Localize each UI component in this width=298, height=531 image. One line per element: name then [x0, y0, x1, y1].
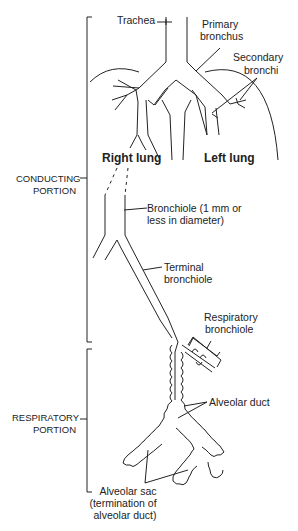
respiratory-bracket — [87, 349, 92, 492]
bronchiole — [93, 195, 105, 258]
label-left-lung: Left lung — [204, 152, 255, 164]
label-terminal-bronchiole-line1: Terminal — [164, 261, 204, 273]
alveolar-duct — [123, 345, 172, 467]
label-alveolar-sac-line3: alveolar duct) — [93, 509, 157, 521]
label-secondary-bronchi-line2: bronchi — [244, 64, 278, 76]
label-terminal-bronchiole-line2: bronchiole — [164, 273, 212, 285]
label-trachea: Trachea — [117, 14, 155, 26]
airway-drawing — [0, 0, 298, 531]
label-respiratory-bronchiole-line2: bronchiole — [205, 323, 253, 335]
label-bronchiole-line2: less in diameter) — [147, 214, 224, 226]
label-alveolar-sac-line1: Alveolar sac — [98, 485, 158, 497]
label-respiratory-section-line1: RESPIRATORY — [12, 412, 76, 424]
label-alveolar-duct: Alveolar duct — [209, 396, 270, 408]
trachea — [136, 17, 166, 90]
label-respiratory-bronchiole-line1: Respiratory — [204, 311, 258, 323]
label-secondary-bronchi-line1: Secondary — [233, 51, 283, 63]
label-bronchiole-line1: Bronchiole (1 mm or — [147, 202, 242, 214]
label-conducting-section-line2: PORTION — [16, 185, 76, 197]
airway-diagram: Trachea Primary bronchus Secondary bronc… — [0, 0, 298, 531]
left-lung-outline — [205, 70, 278, 160]
label-respiratory-section-line2: PORTION — [12, 424, 76, 436]
label-primary-bronchus-line1: Primary — [202, 18, 238, 30]
label-alveolar-sac-line2: (termination of — [88, 497, 158, 509]
right-lung-outline — [90, 69, 139, 82]
label-conducting-section-line1: CONDUCTING — [16, 173, 76, 185]
conducting-bracket — [87, 17, 92, 342]
label-primary-bronchus-line2: bronchus — [200, 30, 243, 42]
label-right-lung: Right lung — [102, 152, 161, 164]
